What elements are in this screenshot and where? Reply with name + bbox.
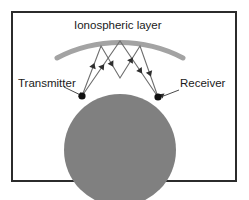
arrow-a4 — [146, 70, 154, 78]
arrow-a1 — [89, 62, 97, 69]
receiver-leader-line — [164, 90, 180, 96]
ionospheric-propagation-diagram: Ionospheric layer Transmitter Receiver — [0, 0, 249, 200]
ray-path-b — [82, 41, 158, 97]
arrow-b1 — [98, 62, 107, 70]
ray-path-a — [82, 46, 158, 97]
receiver-node — [154, 93, 161, 100]
ionospheric-layer-label: Ionospheric layer — [74, 19, 162, 31]
earth-circle — [64, 94, 176, 200]
arrow-a2 — [108, 60, 117, 68]
arrow-b2 — [136, 67, 145, 75]
transmitter-label: Transmitter — [18, 77, 76, 89]
ionospheric-layer-arc — [57, 43, 183, 58]
receiver-label: Receiver — [180, 77, 225, 89]
transmitter-node — [78, 92, 85, 99]
